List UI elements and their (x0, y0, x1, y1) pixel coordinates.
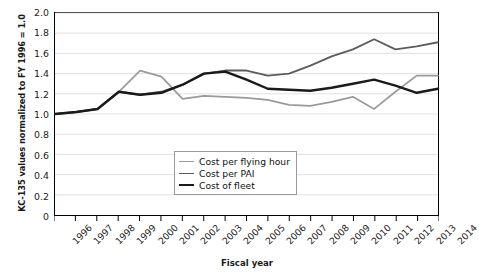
chart-legend: Cost per flying hourCost per PAICost of … (174, 151, 297, 195)
x-tick-label: 2002 (198, 222, 222, 246)
legend-item: Cost of fleet (179, 179, 290, 191)
y-tick-label: 0.6 (6, 149, 54, 160)
y-tick-label: 1.6 (6, 47, 54, 58)
x-tick-label: 2004 (241, 222, 265, 246)
x-tick-label: 2003 (220, 222, 244, 246)
y-tick-label: 1.4 (6, 68, 54, 79)
x-tick-label: 2000 (155, 222, 179, 246)
x-tick-label: 2005 (262, 222, 286, 246)
x-tick-label: 2014 (455, 222, 479, 246)
y-axis-tick-labels: 00.20.40.60.81.01.21.41.61.82.0 (0, 0, 54, 277)
y-tick-label: 0.2 (6, 190, 54, 201)
legend-item-label: Cost per PAI (199, 168, 254, 179)
legend-swatch-icon (179, 161, 194, 162)
x-tick-label: 2007 (305, 222, 329, 246)
y-tick-label: 0 (6, 211, 54, 222)
x-axis-title: Fiscal year (54, 258, 440, 268)
legend-swatch-icon (179, 173, 194, 174)
y-tick-label: 0.4 (6, 170, 54, 181)
x-tick-label: 1997 (91, 222, 115, 246)
x-tick-label: 2006 (284, 222, 308, 246)
legend-item-label: Cost of fleet (199, 180, 255, 191)
x-tick-label: 2010 (369, 222, 393, 246)
x-axis-tick-labels: 1996199719981999200020012002200320042005… (54, 216, 439, 261)
y-tick-label: 1.8 (6, 27, 54, 38)
legend-swatch-icon (179, 184, 194, 186)
x-tick-label: 2009 (348, 222, 372, 246)
x-tick-label: 2011 (391, 222, 415, 246)
x-tick-label: 2012 (412, 222, 436, 246)
series-line-3 (55, 72, 438, 114)
x-tick-label: 2001 (177, 222, 201, 246)
x-tick-label: 1998 (113, 222, 137, 246)
x-axis-ticks (54, 216, 439, 222)
y-tick-label: 1.2 (6, 88, 54, 99)
y-tick-label: 1.0 (6, 109, 54, 120)
y-tick-label: 2.0 (6, 7, 54, 18)
legend-item: Cost per flying hour (179, 155, 290, 167)
legend-item: Cost per PAI (179, 167, 290, 179)
y-tick-label: 0.8 (6, 129, 54, 140)
x-tick-label: 1999 (134, 222, 158, 246)
series-line-1 (55, 71, 438, 114)
x-tick-label: 2013 (433, 222, 457, 246)
x-tick-label: 2008 (327, 222, 351, 246)
x-tick-label: 1996 (70, 222, 94, 246)
legend-item-label: Cost per flying hour (199, 156, 290, 167)
